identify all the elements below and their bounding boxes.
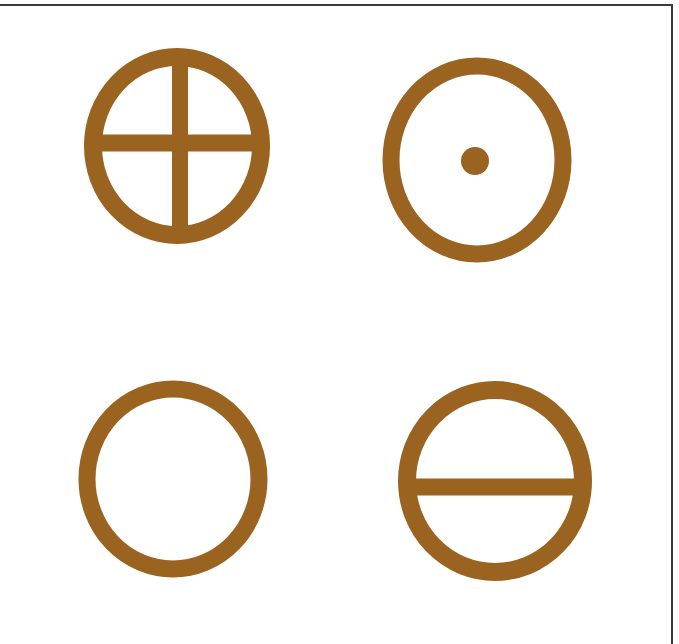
plain-circle-icon — [87, 389, 259, 569]
circle-with-cross-icon — [93, 57, 261, 235]
circle-with-dot-icon — [391, 66, 563, 254]
ring — [87, 389, 259, 569]
circle-with-horizontal-bar-icon — [407, 390, 583, 572]
center-dot — [461, 147, 489, 175]
